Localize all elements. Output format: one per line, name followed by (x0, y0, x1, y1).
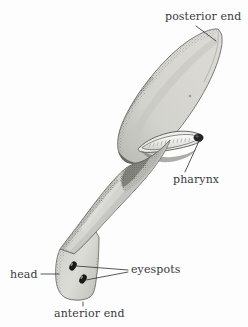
planarian-anatomy-figure: posterior end pharynx eyespots head ante… (0, 0, 248, 327)
body-surface-dot (189, 95, 192, 98)
label-eyespots: eyespots (131, 264, 180, 276)
label-posterior-end: posterior end (165, 11, 241, 23)
label-anterior-end: anterior end (54, 308, 125, 320)
label-pharynx: pharynx (173, 174, 219, 186)
pharynx-tip (194, 134, 203, 141)
label-head: head (10, 269, 38, 281)
